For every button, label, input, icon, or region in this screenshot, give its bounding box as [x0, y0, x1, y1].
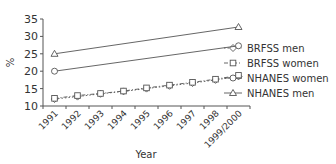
legend-label: NHANES men — [247, 88, 314, 99]
series-nhanes-women — [52, 43, 242, 74]
legend-item: BRFSS women — [224, 58, 319, 69]
series-brfss-women — [52, 73, 242, 102]
x-tick-label: 1995 — [129, 108, 152, 131]
x-axis-label: Year — [134, 149, 157, 160]
x-tick-label: 1994 — [106, 108, 129, 131]
legend-label: BRFSS women — [247, 58, 319, 69]
y-tick-label: 20 — [24, 65, 38, 78]
y-tick-label: 25 — [24, 48, 38, 61]
x-tick-label: 1996 — [152, 108, 175, 131]
x-tick-label: 1997 — [175, 108, 198, 131]
series-nhanes-men — [51, 24, 242, 57]
y-tick-label: 10 — [24, 100, 38, 113]
x-tick-label: 1991 — [37, 108, 60, 131]
x-tick-label: 1993 — [83, 108, 106, 131]
legend-label: NHANES women — [247, 73, 329, 84]
line-chart: 1015202530351991199219931994199519961997… — [0, 0, 336, 164]
y-axis-label: % — [5, 58, 16, 68]
y-tick-label: 30 — [24, 30, 38, 43]
x-tick-label: 1992 — [60, 108, 83, 131]
legend-item: NHANES men — [224, 88, 314, 99]
legend-label: BRFSS men — [247, 43, 305, 54]
y-tick-label: 35 — [24, 13, 38, 26]
y-tick-label: 15 — [24, 83, 38, 96]
